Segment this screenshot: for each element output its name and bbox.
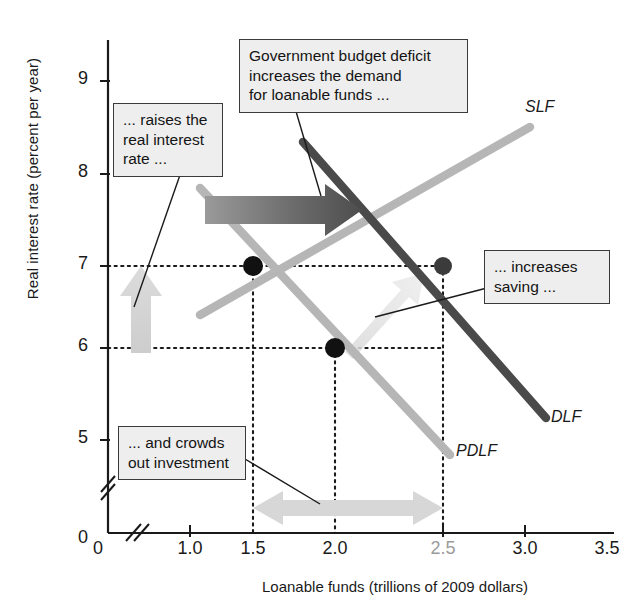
x-tick-0: 0	[78, 538, 118, 559]
point-private-equilibrium	[325, 338, 345, 358]
crowding-out-arrow	[253, 491, 443, 525]
saving-increase-arrow	[345, 273, 424, 359]
x-axis-ticks	[190, 525, 525, 537]
x-tick-1-5: 1.5	[233, 538, 273, 559]
y-tick-5: 5	[58, 427, 88, 448]
rate-rise-arrow	[120, 266, 162, 353]
loanable-funds-market-figure: Real interest rate (percent per year) 9 …	[0, 0, 634, 615]
demand-shift-arrow	[205, 184, 362, 236]
x-tick-1-0: 1.0	[170, 538, 210, 559]
x-tick-2-5: 2.5	[423, 538, 463, 559]
y-tick-7: 7	[58, 253, 88, 274]
y-tick-8: 8	[58, 161, 88, 182]
callout-budget-deficit: Government budget deficit increases the …	[239, 39, 468, 113]
callout-raises-rate: ... raises the real interest rate ...	[113, 103, 223, 177]
y-tick-6: 6	[58, 335, 88, 356]
x-tick-2-0: 2.0	[315, 538, 355, 559]
callout-crowds-out: ... and crowds out investment	[118, 426, 246, 480]
x-tick-3-5: 3.5	[587, 538, 627, 559]
y-axis-label: Real interest rate (percent per year)	[24, 29, 41, 329]
curve-label-pdlf: PDLF	[456, 442, 497, 460]
curve-label-slf: SLF	[525, 98, 554, 116]
point-initial-equilibrium	[243, 256, 263, 276]
callout-increases-saving: ... increases saving ...	[484, 250, 610, 304]
point-new-equilibrium	[434, 257, 452, 275]
y-tick-9: 9	[58, 68, 88, 89]
curve-label-dlf: DLF	[551, 408, 581, 426]
x-axis-label: Loanable funds (trillions of 2009 dollar…	[180, 578, 610, 595]
x-tick-3-0: 3.0	[505, 538, 545, 559]
